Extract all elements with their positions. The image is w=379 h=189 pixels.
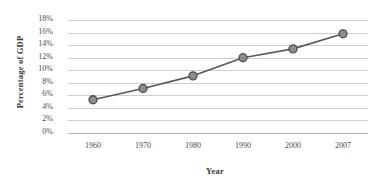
series-line <box>93 34 343 100</box>
data-point-marker <box>189 72 197 80</box>
gridline <box>68 133 368 134</box>
data-point-marker <box>139 84 147 92</box>
x-axis-tick-label: 1980 <box>171 141 215 150</box>
y-axis-tick-label: 14% <box>13 39 53 48</box>
y-axis-tick-label: 10% <box>13 64 53 73</box>
x-axis-tick-label: 2000 <box>271 141 315 150</box>
x-axis-tick-label: 1960 <box>71 141 115 150</box>
y-axis-tick-label: 8% <box>13 77 53 86</box>
plot-area: 0%2%4%6%8%10%12%14%16%18% 19601970198019… <box>68 20 368 133</box>
y-axis-tick-label: 0% <box>13 127 53 136</box>
y-axis-tick-label: 2% <box>13 114 53 123</box>
x-axis-title: Year <box>60 166 370 176</box>
data-point-marker <box>339 30 347 38</box>
x-axis-tick-label: 1970 <box>121 141 165 150</box>
data-point-marker <box>289 45 297 53</box>
y-axis-tick-label: 18% <box>13 14 53 23</box>
x-axis-tick-label: 2007 <box>321 141 365 150</box>
data-point-marker <box>239 54 247 62</box>
y-axis-tick-label: 16% <box>13 27 53 36</box>
y-axis-tick-label: 4% <box>13 102 53 111</box>
chart-figure: Percentage of GDP 0%2%4%6%8%10%12%14%16%… <box>0 0 379 189</box>
y-axis-tick-label: 12% <box>13 52 53 61</box>
y-axis-tick-label: 6% <box>13 89 53 98</box>
line-series-svg <box>68 20 368 133</box>
data-point-marker <box>89 96 97 104</box>
x-axis-tick-label: 1990 <box>221 141 265 150</box>
